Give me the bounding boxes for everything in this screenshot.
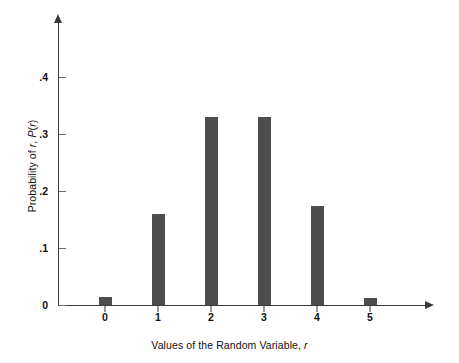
x-tick-label-5: 5: [358, 312, 382, 323]
x-axis-title: Values of the Random Variable, r: [0, 339, 459, 351]
y-axis-title-prefix: Probability of: [26, 147, 38, 212]
y-tick-mark-0.3: [59, 134, 66, 135]
x-tick-label-1: 1: [146, 312, 170, 323]
y-tick-mark-0.2: [59, 191, 66, 192]
probability-distribution-chart: Probability of r, P(r) 0 .1 .2 .3 .4 0 1…: [0, 0, 459, 363]
bar-r-2: [205, 117, 218, 305]
y-tick-mark-0.4: [59, 77, 66, 78]
y-axis-line: [58, 22, 59, 306]
bar-r-1: [152, 214, 165, 305]
y-tick-mark-0.1: [59, 248, 66, 249]
y-tick-label-0: 0: [26, 300, 48, 311]
x-axis-title-prefix: Values of the Random Variable,: [151, 339, 304, 351]
y-tick-label-0.2: .2: [26, 186, 48, 197]
y-tick-label-0.4: .4: [26, 72, 48, 83]
x-tick-label-2: 2: [199, 312, 223, 323]
y-axis-title-paren-close: ): [26, 120, 38, 124]
x-tick-label-0: 0: [93, 312, 117, 323]
y-axis-title-var-r: r: [26, 144, 38, 148]
y-axis-title-var-r2: r: [26, 123, 38, 127]
x-axis-arrow-icon: [425, 301, 434, 309]
bar-r-3: [258, 117, 271, 305]
bar-r-0: [99, 297, 112, 305]
bar-r-4: [311, 206, 324, 305]
x-tick-label-4: 4: [305, 312, 329, 323]
y-tick-label-0.1: .1: [26, 243, 48, 254]
x-axis-title-var-r: r: [304, 339, 308, 351]
y-tick-label-0.3: .3: [26, 129, 48, 140]
y-axis-arrow-icon: [54, 14, 62, 23]
bar-r-5: [364, 298, 377, 305]
x-tick-label-3: 3: [252, 312, 276, 323]
y-tick-mark-0: [59, 305, 66, 306]
